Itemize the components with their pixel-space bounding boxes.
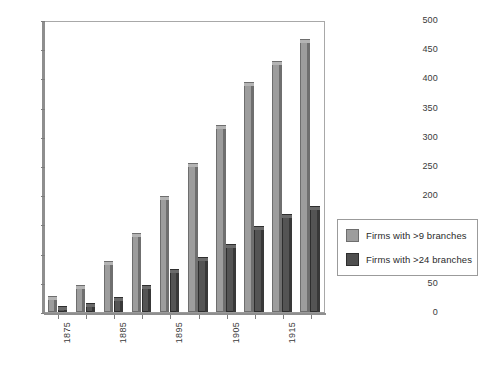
y-tick-mark [41,167,45,168]
y-tick-label: 350 [408,104,438,113]
bar-top [76,285,86,289]
x-tick-label: 1905 [231,322,241,343]
bar [48,296,58,312]
y-tick-label: 300 [408,133,438,142]
legend-swatch-icon-light [346,229,359,242]
x-tick-mark [283,315,284,319]
bar-top [188,163,198,167]
bar-top [48,296,58,300]
x-tick-mark [58,315,59,319]
y-tick-label: 400 [408,74,438,83]
x-tick-mark [86,315,87,319]
y-tick-mark [41,138,45,139]
y-axis [42,21,45,313]
bar [216,125,226,312]
bar-top [132,233,142,237]
y-tick-mark [41,79,45,80]
bar [132,233,142,312]
bar [244,82,254,312]
y-tick-mark [41,225,45,226]
x-tick-mark [170,315,171,319]
x-tick-label: 1875 [62,322,72,343]
y-tick-mark [41,109,45,110]
y-tick-label: 50 [408,279,438,288]
bar-top [272,61,282,65]
y-tick-label: 450 [408,45,438,54]
bars-layer [45,22,324,312]
bar-side [205,260,208,312]
bar-top [160,196,170,200]
bar [300,39,310,312]
x-tick-label: 1895 [174,322,184,343]
y-tick-label: 200 [408,191,438,200]
x-tick-mark [311,315,312,319]
bar [188,163,198,313]
bar-side [176,272,179,312]
bar-top [310,206,320,210]
x-tick-label: 1885 [118,322,128,343]
bar-side [120,300,123,312]
bar-top [58,306,68,310]
bar [310,206,320,312]
bar-side [148,288,151,312]
bar-top [300,39,310,43]
bar-top [254,226,264,230]
bar-top [198,257,208,261]
bar [104,261,114,312]
bar-top [104,261,114,265]
bar [142,285,152,312]
y-tick-mark [41,255,45,256]
bar [58,306,68,312]
plot-area [44,21,325,313]
bar [160,196,170,312]
y-tick-mark [41,21,45,22]
bar-top [282,214,292,218]
y-tick-label: 250 [408,162,438,171]
bar [86,303,96,312]
bar [226,244,236,312]
bar-side [317,209,320,312]
x-tick-mark [255,315,256,319]
legend: Firms with >9 branches Firms with >24 br… [337,219,478,276]
bar [76,285,86,312]
x-tick-mark [227,315,228,319]
bar-top [142,285,152,289]
legend-swatch-icon-dark [346,253,359,266]
bar [254,226,264,312]
bar [282,214,292,312]
legend-entry-firms-9: Firms with >9 branches [346,229,467,242]
bar [170,269,180,312]
bar-side [261,229,264,312]
bar [272,61,282,312]
bar-top [244,82,254,86]
legend-label-firms-9: Firms with >9 branches [366,230,467,241]
bar [114,297,124,312]
bar-chart: 050100150200250300350400450500 187518851… [0,0,486,375]
bar-side [233,247,236,312]
y-tick-label: 0 [408,308,438,317]
legend-entry-firms-24: Firms with >24 branches [346,253,472,266]
x-tick-mark [114,315,115,319]
bar-top [114,297,124,301]
bar-side [289,217,292,312]
bar-top [170,269,180,273]
bar-top [86,303,96,307]
y-tick-mark [41,284,45,285]
bar [198,257,208,312]
x-tick-mark [142,315,143,319]
y-tick-mark [41,50,45,51]
legend-label-firms-24: Firms with >24 branches [366,254,472,265]
x-tick-label: 1915 [287,322,297,343]
x-tick-mark [199,315,200,319]
y-tick-mark [41,196,45,197]
bar-top [216,125,226,129]
y-tick-label: 500 [408,16,438,25]
bar-top [226,244,236,248]
